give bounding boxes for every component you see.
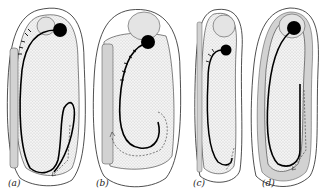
panel-label-a: (a): [8, 178, 20, 188]
panel-d: [251, 8, 318, 187]
panel-b: [93, 9, 180, 186]
panel-label-c: (c): [193, 178, 205, 188]
hatched-band: [197, 22, 202, 172]
inner-body: [201, 13, 237, 173]
panel-c: [195, 9, 242, 182]
embryo-diagram: [0, 0, 321, 194]
panel-label-d: (d): [262, 178, 275, 188]
yolk-sac: [213, 15, 235, 37]
panel-a: [7, 8, 85, 186]
inner-body: [103, 33, 174, 169]
hatched-band: [102, 44, 113, 164]
yolk-sac: [37, 17, 55, 35]
yolk-sac: [128, 12, 160, 40]
hatched-band: [10, 48, 18, 168]
head-mass: [141, 35, 155, 49]
head-mass: [221, 45, 232, 56]
panel-label-b: (b): [96, 178, 109, 188]
